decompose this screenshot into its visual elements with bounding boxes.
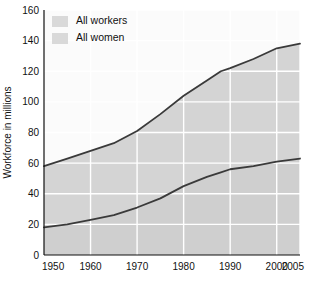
y-tick-label: 40 (28, 188, 40, 199)
legend-swatch-0 (52, 16, 68, 27)
legend-label-0: All workers (76, 14, 127, 26)
x-tick-label: 1970 (126, 261, 149, 272)
workforce-area-chart: 020406080100120140160 195019601970198019… (0, 0, 315, 283)
y-tick-label: 80 (28, 127, 40, 138)
y-tick-label: 140 (22, 35, 39, 46)
x-tick-label: 1990 (219, 261, 242, 272)
y-tick-label: 20 (28, 219, 40, 230)
y-axis-title-text: Workforce in millions (2, 86, 13, 178)
chart-canvas: 020406080100120140160 195019601970198019… (0, 0, 315, 283)
y-tick-label: 120 (22, 66, 39, 77)
x-tick-label: 1960 (79, 261, 102, 272)
x-axis-tick-labels: 1950196019701980199020002005 (42, 261, 304, 272)
y-tick-label: 0 (33, 250, 39, 261)
x-tick-label: 2005 (282, 261, 305, 272)
y-axis-title: Workforce in millions (2, 86, 13, 178)
legend-label-1: All women (76, 31, 125, 43)
y-tick-label: 160 (22, 5, 39, 16)
x-tick-label: 1980 (173, 261, 196, 272)
legend-swatch-1 (52, 33, 68, 44)
y-tick-label: 100 (22, 96, 39, 107)
y-tick-label: 60 (28, 158, 40, 169)
x-tick-label: 1950 (42, 261, 65, 272)
